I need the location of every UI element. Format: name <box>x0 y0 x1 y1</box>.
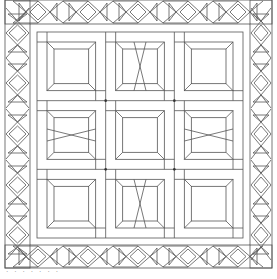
quilt-pattern-drawing <box>0 0 277 279</box>
caption-text: · · · · · · · <box>6 268 60 275</box>
